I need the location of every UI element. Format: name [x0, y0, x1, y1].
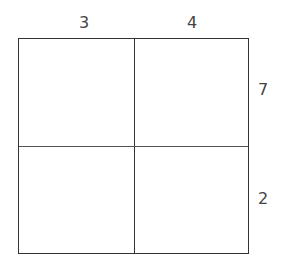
- horizontal-divider: [19, 146, 248, 147]
- side-label-row-2: 2: [258, 191, 268, 207]
- area-grid: [18, 38, 249, 254]
- top-label-col-1: 3: [79, 15, 89, 31]
- side-label-row-1: 7: [258, 82, 268, 98]
- top-label-col-2: 4: [187, 15, 197, 31]
